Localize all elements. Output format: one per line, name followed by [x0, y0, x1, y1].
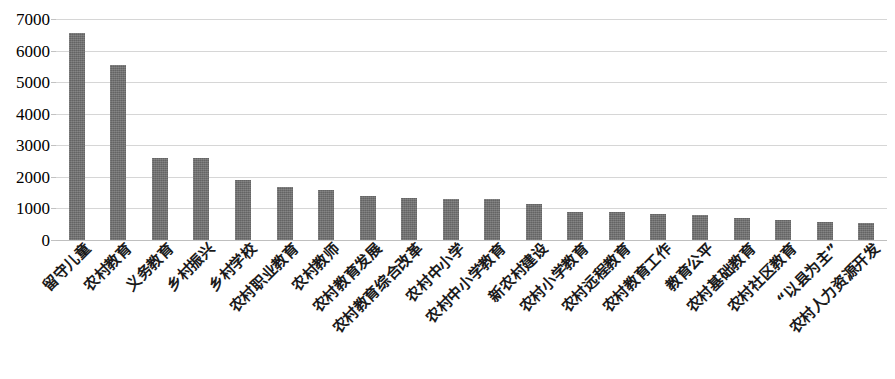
y-axis-tick-label: 3000	[16, 137, 50, 154]
bar	[775, 220, 791, 240]
y-axis-tick-label: 0	[42, 232, 51, 249]
bar	[110, 65, 126, 240]
bar	[858, 223, 874, 240]
bar	[567, 212, 583, 240]
plot-area	[56, 19, 887, 240]
bar	[318, 190, 334, 240]
y-axis-tick-label: 7000	[16, 11, 50, 28]
x-axis-labels: 留守儿童农村教育义务教育乡村振兴乡村学校农村职业教育农村教师农村教育发展农村教育…	[56, 241, 887, 379]
bar	[443, 199, 459, 240]
bar	[734, 218, 750, 240]
y-axis-tick-label: 4000	[16, 105, 50, 122]
bar	[69, 33, 85, 240]
bar	[235, 180, 251, 240]
bar	[692, 215, 708, 240]
y-axis-tick-label: 6000	[16, 42, 50, 59]
bars-series	[56, 19, 887, 240]
bar	[817, 222, 833, 240]
y-axis-tick-label: 2000	[16, 168, 50, 185]
bar	[360, 196, 376, 240]
bar-chart: 70006000500040003000200010000 留守儿童农村教育义务…	[0, 0, 895, 379]
bar	[609, 212, 625, 240]
bar	[152, 158, 168, 240]
y-axis-tick-label: 5000	[16, 74, 50, 91]
bar	[277, 187, 293, 240]
y-axis-tick-label: 1000	[16, 200, 50, 217]
y-axis: 70006000500040003000200010000	[0, 0, 50, 240]
bar	[526, 204, 542, 240]
bar	[650, 214, 666, 240]
bar	[193, 158, 209, 240]
bar	[401, 198, 417, 240]
bar	[484, 199, 500, 240]
